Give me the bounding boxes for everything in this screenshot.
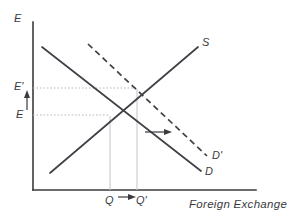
y-axis-label: E	[14, 13, 21, 24]
exchange-rate-rise-arrow-head	[24, 90, 30, 98]
y-tick-label-e: E	[16, 109, 23, 120]
curve-label-d: D	[205, 166, 213, 177]
demand-curve-d-prime	[88, 44, 207, 156]
y-tick-label-e-prime: E'	[14, 81, 23, 92]
curve-label-s: S	[202, 37, 209, 48]
x-axis-label: Foreign Exchange	[189, 199, 287, 211]
demand-shift-arrow-head	[164, 129, 172, 135]
quantity-rise-arrow-head	[128, 194, 136, 200]
x-tick-label-q: Q	[105, 195, 114, 206]
supply-curve-s	[50, 47, 198, 173]
curve-label-d-prime: D'	[212, 150, 222, 161]
chart-canvas	[0, 0, 287, 223]
x-tick-label-q-prime: Q'	[136, 195, 147, 206]
foreign-exchange-supply-demand-figure: E E' E Q Q' S D D' Foreign Exchange	[0, 0, 287, 223]
